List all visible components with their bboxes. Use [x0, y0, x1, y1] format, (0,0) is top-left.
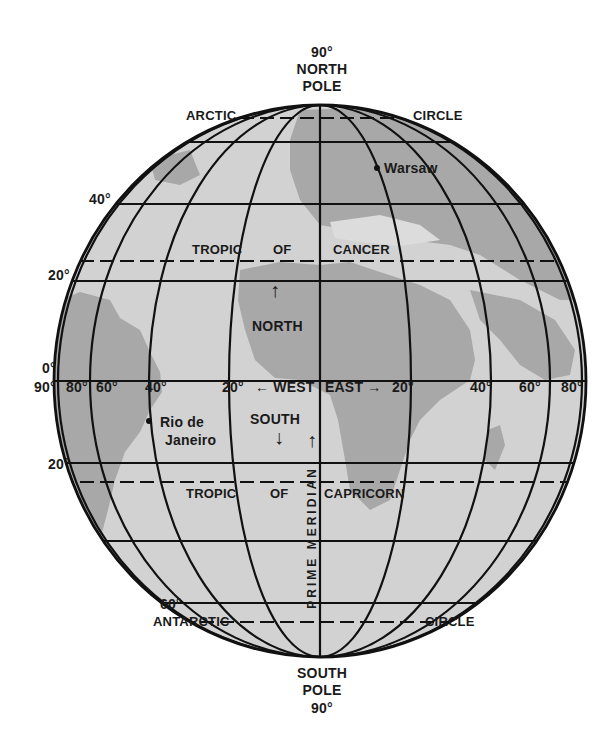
longitude-60e-label: 60° [519, 380, 541, 394]
tropic-cancer-word3: CANCER [333, 243, 390, 257]
prime-meridian-label: PRIME MERIDIAN [305, 466, 319, 609]
tropic-cancer-word1: TROPIC [192, 243, 242, 257]
north-arrow-icon: ↑ [270, 283, 280, 297]
antarctic-circle-label: CIRCLE [425, 615, 475, 629]
south-label: SOUTH [250, 412, 300, 426]
globe [0, 0, 616, 731]
north-pole-degree: 90° [311, 45, 333, 59]
north-label: NORTH [252, 319, 303, 333]
longitude-80w-label: 80° [66, 380, 88, 394]
arctic-label: ARCTIC [186, 109, 236, 123]
longitude-20w-label: 20° [222, 380, 244, 394]
city-rio-label-line1: Rio de [160, 415, 204, 429]
city-warsaw-label: Warsaw [384, 161, 438, 175]
longitude-80e-label: 80° [561, 380, 583, 394]
latitude-60s-label: 60° [160, 597, 182, 611]
south-pole-label-line2: POLE [303, 683, 342, 697]
south-pole-degree: 90° [311, 701, 333, 715]
arctic-circle-label: CIRCLE [413, 109, 463, 123]
south-arrow-icon: ↓ [274, 430, 284, 444]
latitude-20n-label: 20° [48, 268, 70, 282]
longitude-40e-label: 40° [470, 380, 492, 394]
latitude-20s-label: 20° [48, 457, 70, 471]
tropic-capricorn-word2: OF [270, 487, 288, 501]
latitude-equator-label: 0° [42, 361, 56, 375]
rio-dot [146, 418, 152, 424]
east-label: EAST → [325, 380, 381, 394]
west-label: ← WEST [255, 380, 315, 394]
warsaw-dot [374, 165, 380, 171]
north-pole-label-line1: NORTH [297, 62, 348, 76]
north-pole-label-line2: POLE [303, 79, 342, 93]
tropic-capricorn-word3: CAPRICORN [324, 487, 405, 501]
tropic-capricorn-word1: TROPIC [186, 487, 236, 501]
antarctic-label: ANTARCTIC [153, 615, 230, 629]
latitude-40n-label: 40° [89, 192, 111, 206]
longitude-60w-label: 60° [96, 380, 118, 394]
prime-meridian-arrow-icon: ↑ [307, 433, 317, 447]
south-pole-label-line1: SOUTH [297, 666, 347, 680]
longitude-90w-label: 90° [34, 380, 56, 394]
tropic-cancer-word2: OF [273, 243, 291, 257]
longitude-40w-label: 40° [145, 380, 167, 394]
longitude-20e-label: 20° [392, 380, 414, 394]
city-rio-label-line2: Janeiro [165, 433, 216, 447]
